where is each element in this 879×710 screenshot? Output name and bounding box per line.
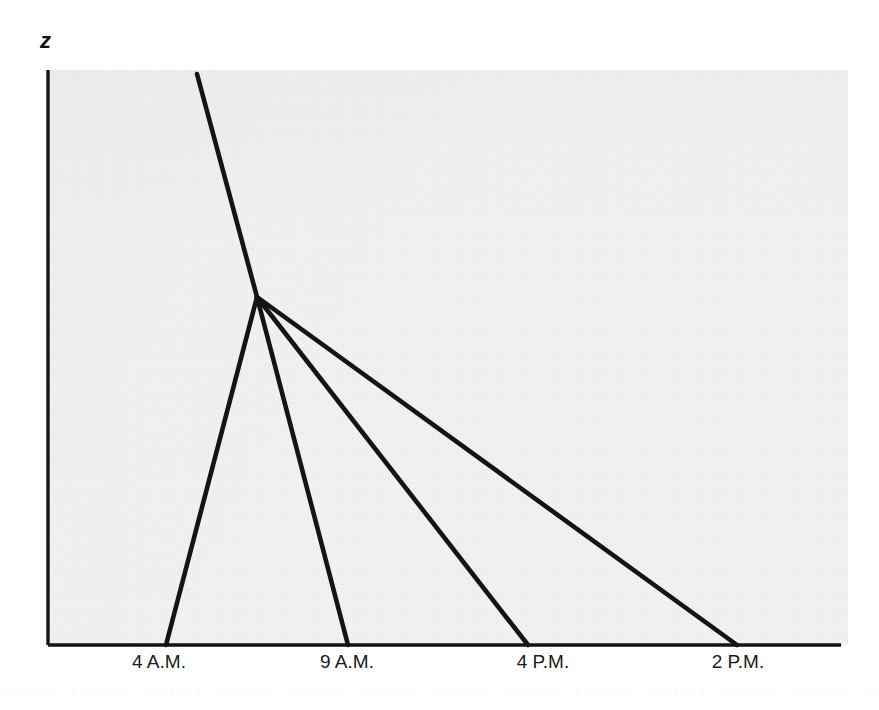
data-series-group	[166, 74, 737, 645]
chart-figure: z 4 A.M.9 A.M.4 P.M.2 P.M.	[0, 0, 879, 710]
x-tick-label: 4 A.M.	[132, 652, 186, 671]
series-line-ray-9am	[257, 297, 348, 645]
x-tick-label: 4 P.M.	[517, 652, 569, 671]
series-line-ray-4pm	[257, 297, 528, 645]
series-line-ray-4am	[166, 297, 257, 645]
x-tick-label: 9 A.M.	[320, 652, 374, 671]
series-line-ray-2pm	[257, 297, 737, 645]
axes-group	[48, 70, 841, 645]
series-line-incoming-descent	[197, 74, 257, 297]
x-tick-label: 2 P.M.	[712, 652, 764, 671]
plot-canvas	[0, 0, 879, 710]
